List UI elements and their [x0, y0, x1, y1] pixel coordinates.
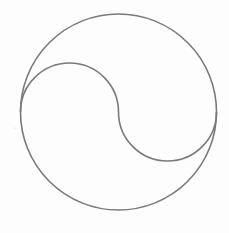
s-curve-divider: [21, 63, 217, 161]
yin-yang-diagram: [0, 0, 229, 233]
diagram-canvas: [0, 0, 229, 233]
artifact-speck: [14, 127, 15, 128]
